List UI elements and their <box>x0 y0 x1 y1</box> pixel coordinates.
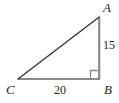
vertex-label-b: B <box>104 83 112 96</box>
vertex-label-c: C <box>6 83 15 96</box>
geometry-figure: A B C 15 20 <box>0 0 119 103</box>
vertex-label-a: A <box>103 1 111 14</box>
side-length-label-vertical: 15 <box>103 39 115 51</box>
side-length-label-horizontal: 20 <box>54 84 66 96</box>
side-ca-hypotenuse-line <box>18 17 99 79</box>
right-angle-marker <box>91 71 100 80</box>
